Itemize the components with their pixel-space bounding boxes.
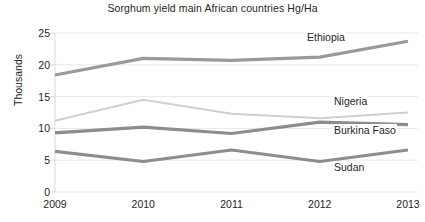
series-label-ethiopia: Ethiopia (306, 31, 346, 43)
series-label-burkina-faso: Burkina Faso (333, 124, 397, 136)
series-label-sudan: Sudan (333, 161, 365, 173)
plot-area (0, 0, 425, 222)
series-label-nigeria: Nigeria (333, 95, 368, 107)
chart-container: Sorghum yield main African countries Hg/… (0, 0, 425, 222)
series-line-ethiopia (55, 41, 408, 75)
